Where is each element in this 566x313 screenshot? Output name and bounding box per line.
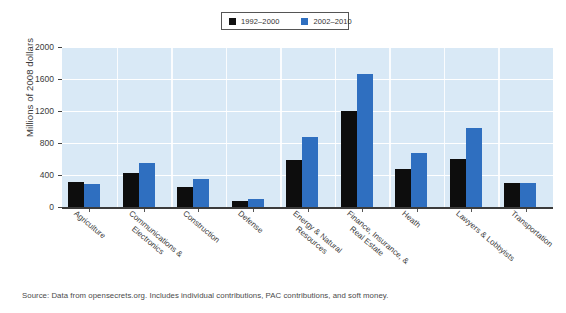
legend-swatch-blue <box>301 18 308 25</box>
x-tick-label: Finance, Insurance, &Real Estate <box>339 209 411 274</box>
plot-area <box>62 47 553 207</box>
bar <box>450 159 466 207</box>
bar <box>357 74 373 207</box>
x-tick-label: Lawyers & Lobbyists <box>454 209 516 263</box>
x-tick-mark <box>253 209 254 212</box>
bar <box>411 153 427 207</box>
bar-group <box>444 47 499 207</box>
bar-group <box>280 47 335 207</box>
x-tick-label: Energy & NaturalResources <box>284 209 343 263</box>
x-tick-mark <box>144 209 145 212</box>
x-tick-mark <box>471 209 472 212</box>
bar-group <box>226 47 281 207</box>
x-tick-mark <box>308 209 309 212</box>
bar-group <box>498 47 553 207</box>
x-tick-label: Defense <box>236 209 265 235</box>
bar-group <box>389 47 444 207</box>
clipped-header-text <box>8 0 428 4</box>
bar <box>177 187 193 207</box>
y-tick-label-1200: 1200 <box>14 106 54 116</box>
bar-group <box>117 47 172 207</box>
x-tick-mark <box>417 209 418 212</box>
bar <box>520 183 536 207</box>
bar <box>248 199 264 207</box>
legend-item-2002-2010: 2002–2010 <box>301 17 351 26</box>
x-tick-label: Agriculture <box>72 209 107 241</box>
bar <box>193 179 209 207</box>
legend-label-2002-2010: 2002–2010 <box>313 17 351 26</box>
bar <box>302 137 318 207</box>
bar <box>341 111 357 207</box>
x-tick-mark <box>89 209 90 212</box>
x-tick-mark <box>362 209 363 212</box>
chart-legend: 1992–2000 2002–2010 <box>221 12 349 30</box>
legend-swatch-black <box>229 18 236 25</box>
bar <box>123 173 139 207</box>
y-tick-label-1600: 1600 <box>14 74 54 84</box>
x-tick-label: Communications &Electronics <box>121 209 185 267</box>
bar <box>84 184 100 207</box>
bar <box>395 169 411 207</box>
y-tick-label-400: 400 <box>14 170 54 180</box>
source-note: Source: Data from opensecrets.org. Inclu… <box>22 291 388 300</box>
x-tick-mark <box>198 209 199 212</box>
x-axis-labels: AgricultureCommunications &ElectronicsCo… <box>62 209 553 279</box>
y-tick-label-800: 800 <box>14 138 54 148</box>
bar <box>139 163 155 207</box>
bar-group <box>171 47 226 207</box>
x-tick-label: Transportation <box>509 209 554 249</box>
bar <box>466 128 482 207</box>
bar-group <box>335 47 390 207</box>
x-tick-label: Heath <box>400 209 422 230</box>
x-tick-label: Construction <box>181 209 222 245</box>
bar <box>286 160 302 207</box>
bar-group <box>62 47 117 207</box>
y-tick-label-2000: 2000 <box>14 42 54 52</box>
x-tick-mark <box>526 209 527 212</box>
bar <box>68 182 84 207</box>
bar <box>504 183 520 207</box>
legend-item-1992-2000: 1992–2000 <box>229 17 279 26</box>
legend-label-1992-2000: 1992–2000 <box>241 17 279 26</box>
chart-page: 1992–2000 2002–2010 Millions of 2008 dol… <box>0 0 566 313</box>
y-tick-label-0: 0 <box>14 202 54 212</box>
